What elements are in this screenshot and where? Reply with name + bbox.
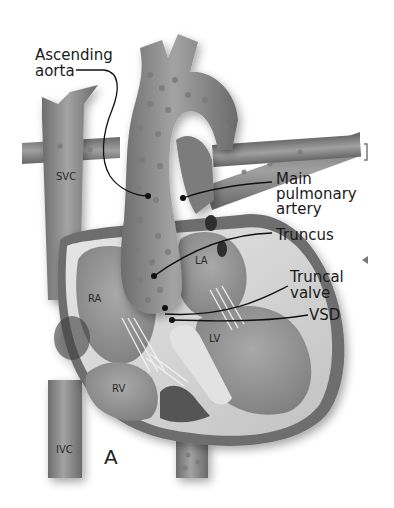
label-truncus: Truncus bbox=[275, 226, 334, 244]
panel-label: A bbox=[104, 445, 118, 469]
label-main-pulmonary-artery-line3: artery bbox=[276, 200, 322, 218]
truncus-arteriosus-diagram: Ascending aorta Main pulmonary artery Tr… bbox=[0, 0, 394, 508]
heart bbox=[54, 214, 344, 446]
label-svc: SVC bbox=[56, 171, 76, 182]
label-vsd: VSD bbox=[309, 306, 340, 324]
label-ivc: IVC bbox=[56, 444, 73, 455]
label-la: LA bbox=[195, 255, 208, 266]
label-ra: RA bbox=[88, 293, 102, 304]
label-lv: LV bbox=[209, 333, 220, 344]
label-truncal-valve-line2: valve bbox=[290, 284, 330, 302]
label-ascending-aorta-line2: aorta bbox=[35, 62, 75, 80]
label-rv: RV bbox=[112, 383, 125, 394]
edge-marks bbox=[362, 144, 368, 264]
